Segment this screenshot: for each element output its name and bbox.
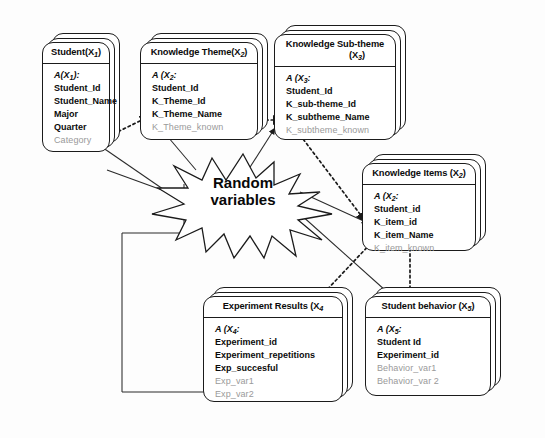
stack-sheet-front: Knowledge Sub-theme (X3) A (X3: Student_…	[274, 34, 396, 140]
entity-experiment-results[interactable]: Experiment Results (X4 A (X4: Experiment…	[203, 296, 343, 402]
entity-field: Experiment_repetitions	[215, 349, 342, 362]
entity-field: Student_Name	[54, 95, 109, 108]
entity-field: Experiment_id	[215, 336, 342, 349]
entity-field: Student Id	[377, 336, 490, 349]
stack-sheet-front: Student behavior (X5) A (X5: Student Id …	[365, 296, 491, 396]
entity-field-random: Exp_var1	[215, 375, 342, 388]
entity-field-random: K_Theme_known	[152, 121, 257, 134]
entity-attribute-header: A (X2:	[152, 69, 257, 83]
entity-field-random: Behavior_var1	[377, 362, 490, 375]
entity-title: Knowledge Items (X2)	[363, 164, 475, 185]
entity-attribute-header: A(X1):	[54, 69, 109, 83]
entity-fields: A (X4: Experiment_id Experiment_repetiti…	[204, 318, 342, 405]
entity-field-random: Category	[54, 134, 109, 147]
entity-attribute-header: A (X2:	[374, 190, 475, 204]
entity-knowledge-subtheme[interactable]: Knowledge Sub-theme (X3) A (X3: Student_…	[274, 34, 396, 140]
entity-field: Student_Id	[286, 85, 395, 98]
entity-student-behavior[interactable]: Student behavior (X5) A (X5: Student Id …	[365, 296, 491, 396]
entity-field: K_item_Name	[374, 229, 475, 242]
stack-sheet-front: Knowledge Items (X2) A (X2: Student_id K…	[362, 163, 476, 251]
stack-sheet-front: Knowledge Theme(X2) A (X2: Student_Id K_…	[140, 42, 258, 140]
entity-field: Student_Id	[152, 82, 257, 95]
entity-attribute-header: A (X5:	[377, 323, 490, 337]
entity-field: K_item_id	[374, 216, 475, 229]
entity-attribute-header: A (X4:	[215, 323, 342, 337]
entity-field: K_Theme_Id	[152, 95, 257, 108]
stack-sheet-front: Student(X1) A(X1): Student_Id Student_Na…	[42, 42, 110, 152]
entity-title: Student behavior (X5)	[366, 297, 490, 318]
entity-field-random: K_subtheme_known	[286, 124, 395, 137]
entity-knowledge-theme[interactable]: Knowledge Theme(X2) A (X2: Student_Id K_…	[140, 42, 258, 140]
entity-field: Experiment_id	[377, 349, 490, 362]
entity-field: K_subtheme_Name	[286, 111, 395, 124]
entity-field: Major	[54, 108, 109, 121]
entity-title: Student(X1)	[43, 43, 109, 64]
entity-field-random: Exp_var2	[215, 388, 342, 401]
entity-title: Knowledge Sub-theme (X3)	[275, 35, 395, 67]
entity-field-random: Behavior_var 2	[377, 375, 490, 388]
entity-field: Quarter	[54, 121, 109, 134]
entity-fields: A (X5: Student Id Experiment_id Behavior…	[366, 318, 490, 392]
entity-field: K_Theme_Name	[152, 108, 257, 121]
random-variables-starburst	[150, 152, 336, 260]
entity-fields: A(X1): Student_Id Student_Name Major Qua…	[43, 64, 109, 151]
entity-field-random: K_item_known	[374, 242, 475, 255]
stack-sheet-front: Experiment Results (X4 A (X4: Experiment…	[203, 296, 343, 402]
entity-title: Knowledge Theme(X2)	[141, 43, 257, 64]
entity-field: Student_id	[374, 203, 475, 216]
entity-attribute-header: A (X3:	[286, 72, 395, 86]
entity-field: Student_Id	[54, 82, 109, 95]
entity-title: Experiment Results (X4	[204, 297, 342, 318]
diagram-canvas: Random variables Student(X1) A(X1): Stud…	[0, 0, 545, 438]
entity-fields: A (X2: Student_id K_item_id K_item_Name …	[363, 185, 475, 259]
entity-knowledge-items[interactable]: Knowledge Items (X2) A (X2: Student_id K…	[362, 163, 476, 251]
entity-field: K_sub-theme_Id	[286, 98, 395, 111]
entity-fields: A (X2: Student_Id K_Theme_Id K_Theme_Nam…	[141, 64, 257, 138]
entity-student[interactable]: Student(X1) A(X1): Student_Id Student_Na…	[42, 42, 110, 152]
entity-field: Exp_succesful	[215, 362, 342, 375]
entity-fields: A (X3: Student_Id K_sub-theme_Id K_subth…	[275, 67, 395, 141]
